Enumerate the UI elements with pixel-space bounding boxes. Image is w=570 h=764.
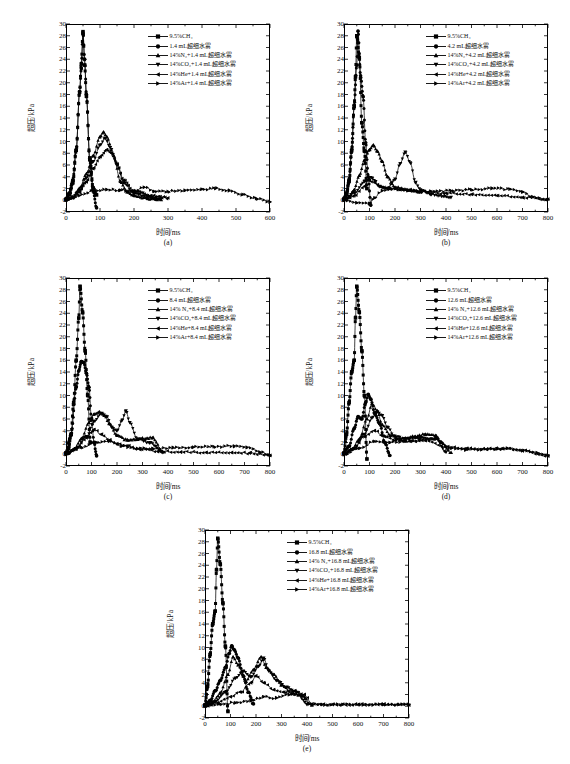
legend-item: 14%CO₂+4.2 mL超细水雾 [426, 60, 514, 69]
legend-item: 9.5%CH₄ [287, 538, 378, 547]
legend-marker-triangle-left-icon [148, 70, 168, 79]
legend-marker-triangle-up-icon [426, 305, 446, 314]
legend-marker-triangle-right-icon [148, 333, 168, 342]
legend-label: 14%CO₂+1.4 mL超细水雾 [168, 60, 236, 69]
chart-panel-d: 超压/kPa-202468101214161820222426283001002… [296, 268, 558, 512]
legend-label: 14%Ar+12.6 mL超细水雾 [446, 333, 513, 342]
legend-marker-triangle-down-icon [426, 314, 446, 323]
legend-marker-square-icon [426, 286, 446, 295]
legend-label: 14%N₂+4.2 mL超细水雾 [446, 51, 510, 60]
legend-a: 9.5%CH₄1.4 mL超细水雾14%N₂+1.4 mL超细水雾14%CO₂+… [148, 32, 236, 88]
legend-label: 14%CO₂+8.4 mL超细水雾 [168, 314, 236, 323]
legend-marker-triangle-down-icon [148, 314, 168, 323]
legend-item: 14%He+8.4 mL超细水雾 [148, 324, 236, 333]
legend-d: 9.5%CH₄12.6 mL超细水雾14% N₂+12.6 mL超细水雾14%C… [426, 286, 517, 342]
legend-item: 4.2 mL超细水雾 [426, 41, 514, 50]
legend-marker-triangle-right-icon [426, 79, 446, 88]
legend-item: 14%Ar+16.8 mL超细水雾 [287, 585, 378, 594]
legend-item: 14%CO₂+8.4 mL超细水雾 [148, 314, 236, 323]
legend-item: 14%He+12.6 mL超细水雾 [426, 324, 517, 333]
legend-label: 14%He+16.8 mL超细水雾 [307, 576, 375, 585]
legend-label: 9.5%CH₄ [168, 32, 193, 41]
chart-panel-c: 超压/kPa-202468101214161820222426283001002… [18, 268, 280, 512]
legend-label: 14%N₂+1.4 mL超细水雾 [168, 51, 232, 60]
legend-item: 14%CO₂+16.8 mL超细水雾 [287, 566, 378, 575]
series-a-4 [64, 148, 170, 202]
legend-label: 1.4 mL超细水雾 [168, 42, 211, 51]
series-d-4 [342, 429, 550, 458]
legend-b: 9.5%CH₄4.2 mL超细水雾14%N₂+4.2 mL超细水雾14%CO₂+… [426, 32, 514, 88]
legend-label: 14% N₂+16.8 mL超细水雾 [307, 557, 376, 566]
legend-item: 14%CO₂+1.4 mL超细水雾 [148, 60, 236, 69]
legend-item: 9.5%CH₄ [148, 32, 236, 41]
legend-marker-triangle-right-icon [148, 79, 168, 88]
legend-label: 14%CO₂+4.2 mL超细水雾 [446, 60, 514, 69]
legend-marker-triangle-right-icon [426, 333, 446, 342]
legend-label: 14%Ar+16.8 mL超细水雾 [307, 585, 374, 594]
legend-item: 14%Ar+8.4 mL超细水雾 [148, 333, 236, 342]
series-a-0 [64, 30, 98, 201]
legend-marker-triangle-up-icon [148, 51, 168, 60]
legend-item: 14% N₂+12.6 mL超细水雾 [426, 305, 517, 314]
legend-marker-triangle-left-icon [426, 70, 446, 79]
legend-item: 9.5%CH₄ [148, 286, 236, 295]
legend-marker-triangle-up-icon [426, 51, 446, 60]
legend-label: 14%Ar+4.2 mL超细水雾 [446, 79, 510, 88]
legend-marker-triangle-up-icon [148, 305, 168, 314]
legend-label: 9.5%CH₄ [446, 286, 471, 295]
legend-marker-circle-icon [426, 296, 446, 305]
legend-item: 14%He+1.4 mL超细水雾 [148, 70, 236, 79]
legend-item: 12.6 mL超细水雾 [426, 295, 517, 304]
legend-label: 14%He+1.4 mL超细水雾 [168, 70, 233, 79]
legend-label: 14%He+4.2 mL超细水雾 [446, 70, 511, 79]
chart-panel-b: 超压/kPa-202468101214161820222426283001002… [296, 14, 558, 258]
legend-c: 9.5%CH₄8.4 mL超细水雾14% N₂+8.4 mL超细水雾14%CO₂… [148, 286, 236, 342]
legend-label: 4.2 mL超细水雾 [446, 42, 489, 51]
legend-item: 14%He+4.2 mL超细水雾 [426, 70, 514, 79]
legend-label: 9.5%CH₄ [446, 32, 471, 41]
legend-marker-square-icon [426, 32, 446, 41]
legend-item: 14%N₂+4.2 mL超细水雾 [426, 51, 514, 60]
legend-label: 14%He+8.4 mL超细水雾 [168, 324, 233, 333]
legend-item: 9.5%CH₄ [426, 286, 517, 295]
legend-item: 14% N₂+16.8 mL超细水雾 [287, 557, 378, 566]
legend-marker-square-icon [148, 286, 168, 295]
series-a-1 [64, 32, 98, 210]
legend-item: 1.4 mL超细水雾 [148, 41, 236, 50]
legend-label: 14%CO₂+12.6 mL超细水雾 [446, 314, 517, 323]
legend-e: 9.5%CH₄16.8 mL超细水雾14% N₂+16.8 mL超细水雾14%C… [287, 538, 378, 594]
legend-marker-triangle-down-icon [287, 566, 307, 575]
legend-label: 14%He+12.6 mL超细水雾 [446, 324, 514, 333]
legend-marker-circle-icon [148, 296, 168, 305]
legend-marker-triangle-left-icon [287, 576, 307, 585]
legend-marker-triangle-down-icon [148, 60, 168, 69]
legend-label: 14%Ar+1.4 mL超细水雾 [168, 79, 232, 88]
legend-item: 16.8 mL超细水雾 [287, 547, 378, 556]
legend-label: 12.6 mL超细水雾 [446, 296, 492, 305]
legend-marker-circle-icon [426, 42, 446, 51]
legend-item: 14%Ar+4.2 mL超细水雾 [426, 79, 514, 88]
legend-label: 9.5%CH₄ [168, 286, 193, 295]
legend-marker-triangle-right-icon [287, 585, 307, 594]
legend-item: 14% N₂+8.4 mL超细水雾 [148, 305, 236, 314]
legend-marker-circle-icon [287, 548, 307, 557]
legend-label: 14% N₂+12.6 mL超细水雾 [446, 305, 515, 314]
legend-item: 9.5%CH₄ [426, 32, 514, 41]
legend-item: 14%Ar+12.6 mL超细水雾 [426, 333, 517, 342]
legend-label: 14%Ar+8.4 mL超细水雾 [168, 333, 232, 342]
legend-marker-triangle-left-icon [148, 324, 168, 333]
legend-marker-triangle-down-icon [426, 60, 446, 69]
legend-label: 14% N₂+8.4 mL超细水雾 [168, 305, 234, 314]
legend-label: 9.5%CH₄ [307, 538, 332, 547]
legend-label: 8.4 mL超细水雾 [168, 296, 211, 305]
legend-label: 16.8 mL超细水雾 [307, 548, 353, 557]
legend-item: 14%N₂+1.4 mL超细水雾 [148, 51, 236, 60]
legend-marker-square-icon [148, 32, 168, 41]
legend-marker-square-icon [287, 538, 307, 547]
legend-marker-circle-icon [148, 42, 168, 51]
chart-panel-e: 超压/kPa-202468101214161820222426283001002… [157, 520, 419, 764]
chart-panel-a: 超压/kPa-202468101214161820222426283001002… [18, 14, 280, 258]
legend-item: 14%CO₂+12.6 mL超细水雾 [426, 314, 517, 323]
legend-marker-triangle-left-icon [426, 324, 446, 333]
legend-label: 14%CO₂+16.8 mL超细水雾 [307, 566, 378, 575]
